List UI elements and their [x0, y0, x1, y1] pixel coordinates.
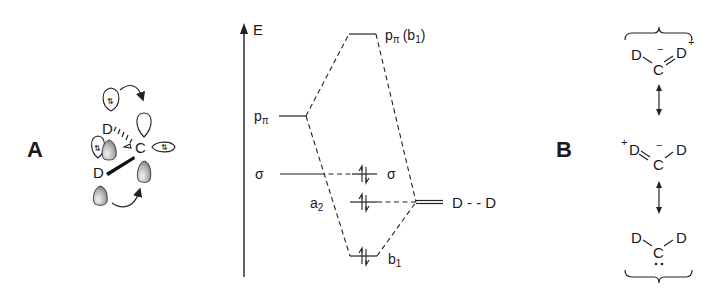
resonance-structure-1: D C − D + [631, 36, 694, 78]
correlation-line [376, 34, 416, 202]
svg-text:σ: σ [255, 166, 264, 182]
svg-text:+: + [688, 36, 694, 48]
level-d-d: D - - D [416, 194, 496, 211]
svg-text:C: C [653, 156, 664, 173]
atom-carbon: C [135, 139, 146, 156]
curved-arrow-top [120, 86, 142, 97]
lone-pair-dot [655, 263, 658, 266]
electron-pair-icon: ⇅ [94, 144, 101, 153]
panel-b-label: B [556, 137, 572, 162]
svg-text:pπ: pπ [254, 108, 269, 126]
resonance-brace-bottom [625, 270, 692, 283]
panel-a: A ⇅ D ⇅ C ⇅ D [27, 86, 175, 207]
resonance-arrow-icon [656, 84, 662, 116]
hashed-bond [114, 127, 132, 143]
svg-text:D: D [676, 141, 687, 158]
lone-pair-dot [661, 263, 664, 266]
level-sigma: σ σ [255, 166, 396, 183]
orbital-shaded-c [137, 161, 150, 182]
svg-text:−: − [657, 43, 663, 55]
atom-d-bottom: D [93, 164, 104, 181]
level-b1: b1 [350, 248, 402, 269]
resonance-structure-2: + D − C D [621, 136, 687, 173]
panel-a-label: A [27, 137, 43, 162]
svg-text:D: D [629, 141, 640, 158]
mo-diagram: E pπ pπ(b1) σ σ [240, 21, 496, 277]
orbital-shaded-bottom [93, 186, 107, 205]
svg-text:a2: a2 [310, 195, 324, 213]
svg-text:b1: b1 [388, 251, 402, 269]
svg-text:−: − [656, 139, 662, 151]
svg-text:C: C [653, 61, 664, 78]
energy-axis-arrow-icon [240, 23, 248, 34]
electron-pair-icon: ⇅ [107, 97, 114, 106]
curved-arrow-bottom [112, 192, 139, 207]
svg-text:+: + [621, 136, 627, 148]
orbital-empty-top [137, 113, 151, 137]
energy-axis-label: E [253, 21, 263, 38]
correlation-line [306, 34, 349, 116]
svg-text:C: C [653, 244, 664, 261]
atom-d-top: D [102, 120, 113, 137]
svg-text:pπ(b1): pπ(b1) [385, 27, 425, 45]
panel-b: B D C − D + + D − C D [556, 27, 694, 283]
resonance-arrow-icon [656, 181, 662, 214]
svg-text:D: D [631, 46, 642, 63]
orbital-small-lobe [124, 144, 131, 148]
svg-text:D: D [631, 229, 642, 246]
level-p-pi-left: pπ [254, 108, 306, 126]
level-p-pi-b1: pπ(b1) [349, 27, 425, 45]
resonance-structure-3: D C D [631, 229, 687, 265]
electron-pair-icon: ⇅ [161, 143, 168, 152]
resonance-brace-top [625, 27, 692, 40]
svg-text:D: D [676, 229, 687, 246]
svg-text:σ: σ [387, 166, 396, 182]
svg-text:D: D [676, 44, 687, 61]
correlation-line [306, 116, 350, 256]
svg-text:D - - D: D - - D [452, 194, 496, 211]
correlation-line [377, 202, 416, 256]
level-a2: a2 [310, 194, 416, 213]
diagram-canvas: A ⇅ D ⇅ C ⇅ D [0, 0, 715, 292]
